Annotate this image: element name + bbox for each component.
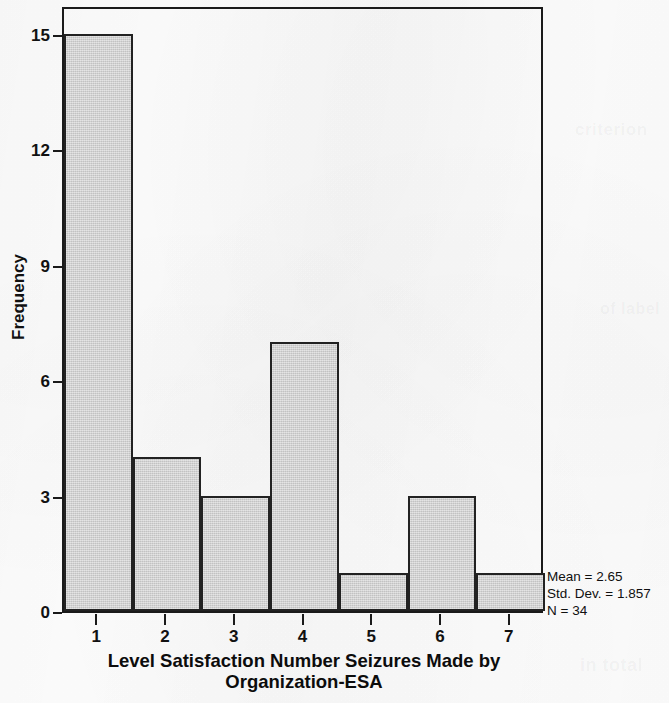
x-axis-tick-label: 4 xyxy=(283,628,323,645)
x-axis-tick-mark xyxy=(508,614,510,625)
y-axis-tick-label: 6 xyxy=(0,373,50,390)
y-axis-tick-mark xyxy=(53,497,62,499)
x-axis-tick-mark xyxy=(439,614,441,625)
x-axis-tick-label: 5 xyxy=(351,628,391,645)
stat-std-dev: Std. Dev. = 1.857 xyxy=(547,585,651,602)
histogram-bar xyxy=(476,573,545,611)
bars-layer xyxy=(64,9,541,611)
y-axis-tick-label: 3 xyxy=(0,489,50,506)
x-axis-title-line-1: Level Satisfaction Number Seizures Made … xyxy=(34,651,574,672)
histogram-bar xyxy=(339,573,408,611)
x-axis-title-line-2: Organization-ESA xyxy=(34,672,574,693)
y-axis-tick-label: 15 xyxy=(0,27,50,44)
x-axis-title: Level Satisfaction Number Seizures Made … xyxy=(34,651,574,693)
x-axis-tick-label: 7 xyxy=(489,628,529,645)
y-axis-tick-mark xyxy=(53,266,62,268)
histogram-bar xyxy=(408,496,477,611)
x-axis-tick-mark xyxy=(233,614,235,625)
y-axis-tick-mark xyxy=(53,381,62,383)
y-axis-title: Frequency xyxy=(9,237,29,357)
histogram-bar xyxy=(201,496,270,611)
stat-mean: Mean = 2.65 xyxy=(547,568,651,585)
x-axis-tick-label: 6 xyxy=(420,628,460,645)
y-axis-tick-mark xyxy=(53,612,62,614)
stat-n: N = 34 xyxy=(547,602,651,619)
histogram-figure: Frequency 03691215 1234567 Level Satisfa… xyxy=(0,0,669,703)
x-axis-tick-label: 2 xyxy=(145,628,185,645)
x-axis-tick-label: 1 xyxy=(76,628,116,645)
x-axis-tick-mark xyxy=(164,614,166,625)
x-axis-tick-mark xyxy=(95,614,97,625)
plot-area xyxy=(62,7,543,613)
histogram-bar xyxy=(133,457,202,611)
y-axis-tick-mark xyxy=(53,35,62,37)
x-axis-tick-mark xyxy=(370,614,372,625)
x-axis-tick-label: 3 xyxy=(214,628,254,645)
y-axis-tick-label: 12 xyxy=(0,142,50,159)
y-axis-tick-label: 0 xyxy=(0,604,50,621)
y-axis-tick-label: 9 xyxy=(0,258,50,275)
statistics-annotation: Mean = 2.65 Std. Dev. = 1.857 N = 34 xyxy=(547,568,651,619)
histogram-bar xyxy=(64,34,133,611)
histogram-bar xyxy=(270,342,339,611)
y-axis-tick-mark xyxy=(53,150,62,152)
x-axis-tick-mark xyxy=(302,614,304,625)
